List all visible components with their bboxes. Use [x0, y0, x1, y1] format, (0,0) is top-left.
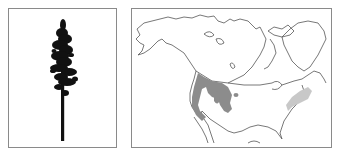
western-range-fill	[192, 73, 239, 121]
north-america-map	[132, 9, 331, 147]
eastern-range-fill	[286, 87, 312, 111]
range-map-panel	[131, 8, 332, 148]
tree-illustration-panel	[8, 8, 117, 148]
conifer-tree-icon	[9, 9, 116, 147]
